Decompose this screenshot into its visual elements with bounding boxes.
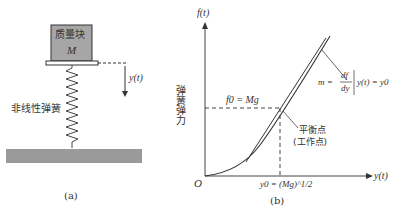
y-axis-title: 弹簧弹力 [174,85,184,125]
spring-icon [66,65,78,148]
slope-m-label: m = [318,78,333,87]
mass-symbol: M [67,45,76,56]
y-axis-arrow-icon [202,22,208,29]
equilibrium-leader-line [283,111,298,128]
slope-condition: y(t) = y0 [357,78,389,87]
slope-denominator: dy [341,84,350,93]
ground [6,149,142,163]
operating-point-label: (工作点) [293,138,327,147]
mass-plate [46,61,98,65]
f0-label: f0 = Mg [226,95,259,105]
x-axis-arrow-icon [366,173,373,179]
y-axis-label: f(t) [197,8,209,18]
y0-label: y0 = (Mg)^1/2 [260,180,312,189]
origin-label: O [194,178,202,189]
x-axis-label: y(t) [374,171,388,181]
equilibrium-label: 平衡点 [299,126,326,135]
displacement-label: y(t) [129,73,143,83]
force-curve [205,36,330,176]
caption-b: (b) [270,196,284,206]
spring-label: 非线性弹簧 [11,104,61,114]
caption-a: (a) [64,191,78,201]
slope-numerator: df [341,71,348,80]
mass-label: 质量块 [55,30,85,40]
displacement-arrow-head-icon [122,91,128,97]
